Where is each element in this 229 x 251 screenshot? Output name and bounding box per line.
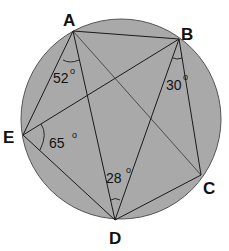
label-d: D	[109, 229, 121, 248]
degree-symbol-d: o	[126, 165, 131, 175]
label-e: E	[3, 128, 14, 147]
geometry-diagram: A B C D E 52 o 30 o 65 o 28 o	[0, 0, 229, 251]
label-b: B	[181, 25, 193, 44]
degree-symbol-b: o	[183, 72, 188, 82]
diagram-canvas: A B C D E 52 o 30 o 65 o 28 o	[0, 0, 229, 251]
degree-symbol-e: o	[72, 130, 77, 140]
label-a: A	[63, 11, 75, 30]
angle-value-a: 52	[53, 70, 69, 86]
angle-value-e: 65	[49, 135, 65, 151]
label-c: C	[203, 179, 215, 198]
angle-value-b: 30	[166, 77, 182, 93]
angle-value-d: 28	[106, 170, 122, 186]
degree-symbol-a: o	[70, 66, 75, 76]
circle	[21, 19, 221, 219]
